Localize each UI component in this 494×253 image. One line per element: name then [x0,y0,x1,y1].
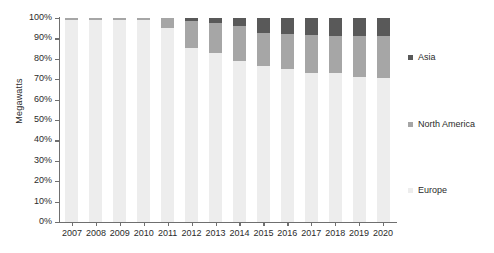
y-axis-tick-mark [55,59,59,60]
bar-segment-europe [329,73,342,222]
x-axis-tick-mark [359,222,360,226]
y-axis-tick-label: 0% [0,216,58,228]
bar-segment-asia [377,18,390,36]
bar-segment-europe [161,28,174,222]
y-axis-tick-mark [55,161,59,162]
bar-segment-europe [305,73,318,222]
bar-segment-europe [65,20,78,222]
bar-2008 [89,18,102,222]
bar-segment-europe [377,78,390,222]
y-axis-tick-mark [55,181,59,182]
y-axis-tick-mark [55,100,59,101]
bar-segment-asia [257,18,270,33]
x-axis-tick-mark [311,222,312,226]
y-axis-tick-mark [55,120,59,121]
bar-segment-europe [209,53,222,222]
y-axis-tick-label: 70% [0,73,58,85]
bar-segment-north-america [329,36,342,73]
y-axis-tick-mark [55,38,59,39]
x-axis-tick-mark [96,222,97,226]
x-axis-tick-label: 2020 [369,228,397,238]
y-axis-tick-label: 10% [0,196,58,208]
bar-segment-europe [257,66,270,222]
x-axis-tick-mark [72,222,73,226]
bar-2011 [161,18,174,222]
bar-2020 [377,18,390,222]
legend-swatch-icon [408,122,413,127]
y-axis-tick-mark [55,222,59,223]
bar-2016 [281,18,294,222]
bar-segment-north-america [305,35,318,73]
stacked-bar-chart: Megawatts 100%90%80%70%60%50%40%30%20%10… [0,0,494,253]
bar-segment-europe [233,61,246,222]
y-axis-tick-mark [55,79,59,80]
y-axis-tick-label: 40% [0,134,58,146]
legend-item-asia[interactable]: Asia [408,52,436,62]
y-axis-tick-label: 80% [0,53,58,65]
bar-segment-europe [137,20,150,222]
x-axis-tick-mark [192,222,193,226]
bar-segment-north-america [377,36,390,78]
bar-segment-north-america [233,26,246,61]
bar-2007 [65,18,78,222]
y-axis-tick-mark [55,202,59,203]
legend-label: Asia [418,52,436,62]
bar-2015 [257,18,270,222]
bar-segment-europe [113,20,126,222]
bar-2014 [233,18,246,222]
y-axis-tick-mark [55,140,59,141]
legend-item-north-america[interactable]: North America [408,119,475,129]
bar-segment-europe [185,48,198,222]
bar-segment-asia [329,18,342,36]
x-axis-tick-mark [383,222,384,226]
bar-segment-europe [89,20,102,222]
bar-segment-north-america [185,21,198,48]
y-axis-tick-label: 90% [0,32,58,44]
bar-segment-north-america [209,23,222,53]
bar-segment-asia [281,18,294,34]
y-axis-tick-label: 20% [0,175,58,187]
x-axis-tick-mark [168,222,169,226]
x-axis-tick-mark [216,222,217,226]
bar-segment-europe [281,69,294,222]
x-axis-tick-mark [239,222,240,226]
bar-2013 [209,18,222,222]
legend-item-europe[interactable]: Europe [408,185,447,195]
bar-segment-asia [233,18,246,26]
bar-2012 [185,18,198,222]
x-axis-tick-mark [120,222,121,226]
legend-label: Europe [418,185,447,195]
x-axis-tick-mark [287,222,288,226]
bar-2010 [137,18,150,222]
y-axis-tick-label: 60% [0,94,58,106]
y-axis-tick-label: 100% [0,12,58,24]
bar-segment-asia [353,18,366,36]
plot-area [60,18,395,222]
bar-segment-north-america [281,34,294,69]
bar-2017 [305,18,318,222]
y-axis-tick-label: 30% [0,155,58,167]
bar-2019 [353,18,366,222]
bar-segment-asia [305,18,318,35]
bar-segment-north-america [161,18,174,28]
bar-2018 [329,18,342,222]
y-axis-tick-mark [55,18,59,19]
bar-segment-north-america [353,36,366,77]
x-axis-tick-mark [263,222,264,226]
bar-2009 [113,18,126,222]
bar-segment-europe [353,77,366,222]
legend-label: North America [418,119,475,129]
legend-swatch-icon [408,188,413,193]
x-axis-tick-mark [335,222,336,226]
bar-segment-north-america [257,33,270,66]
x-axis-tick-mark [144,222,145,226]
legend-swatch-icon [408,55,413,60]
y-axis-tick-label: 50% [0,114,58,126]
